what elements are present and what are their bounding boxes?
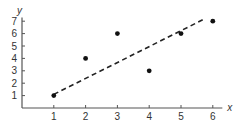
y-axis-ticks: 1234567	[11, 16, 25, 101]
y-axis-label: y	[16, 5, 23, 16]
y-tick: 3	[11, 65, 25, 76]
data-point	[210, 19, 215, 24]
data-point	[51, 93, 56, 98]
y-tick: 6	[11, 28, 25, 39]
x-tick-label: 6	[210, 111, 216, 122]
trend-line-layer	[54, 19, 205, 95]
y-tick-label: 6	[11, 28, 17, 39]
x-tick-label: 5	[178, 111, 184, 122]
x-tick-label: 3	[115, 111, 121, 122]
y-tick-label: 7	[11, 16, 17, 27]
y-tick: 1	[11, 90, 25, 101]
y-tick-label: 2	[11, 78, 17, 89]
chart-canvas: x y 123456 1234567	[0, 0, 241, 128]
data-points-layer	[51, 19, 215, 98]
x-tick-label: 2	[83, 111, 89, 122]
y-tick: 2	[11, 78, 25, 89]
x-tick-label: 4	[146, 111, 152, 122]
scatter-chart: x y 123456 1234567	[0, 0, 241, 128]
trend-line	[54, 19, 205, 95]
y-tick: 4	[11, 53, 25, 64]
y-tick: 5	[11, 41, 25, 52]
y-tick-label: 3	[11, 65, 17, 76]
x-axis-label: x	[226, 102, 233, 113]
y-tick: 7	[11, 16, 25, 27]
data-point	[115, 31, 120, 36]
data-point	[83, 56, 88, 61]
data-point	[179, 31, 184, 36]
data-point	[147, 68, 152, 73]
x-tick-label: 1	[51, 111, 57, 122]
y-tick-label: 5	[11, 41, 17, 52]
y-tick-label: 4	[11, 53, 17, 64]
y-tick-label: 1	[11, 90, 17, 101]
